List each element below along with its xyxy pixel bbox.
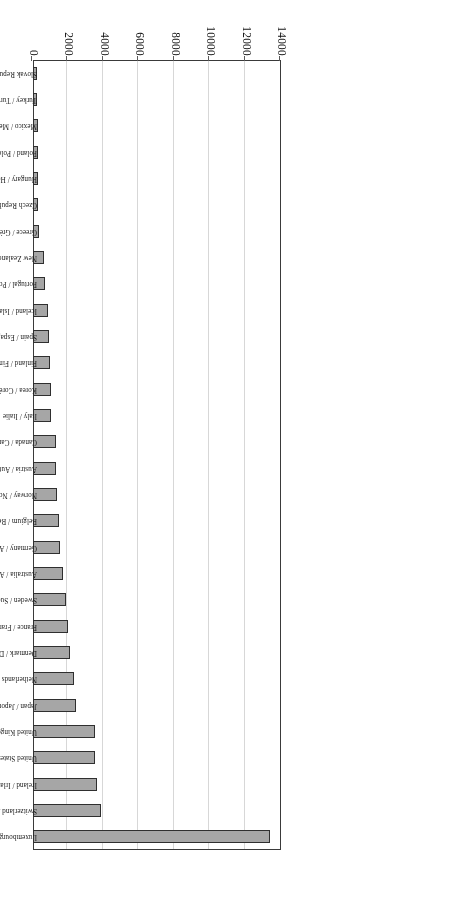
bar-row: Australia / Australie [0,560,473,586]
category-label-text: Mexico / Mexique [0,122,37,130]
category-label-text: Luxembourg / Luxembourg [0,833,37,841]
bar-row: Netherlands / Pays-Bas [0,666,473,692]
bar [33,593,66,606]
x-tick-label: 14000 [276,26,288,56]
x-tick-label: 8000 [170,32,182,56]
category-label-text: Canada / Canada [0,438,37,446]
category-label-text: New Zealand / Nouvelle Zélande [0,254,37,262]
bar-row: France / France [0,613,473,639]
bar-row: Sweden / Suède [0,587,473,613]
x-tick-label: 4000 [99,32,111,56]
bar-row: United Kingdom / Royaume-Uni [0,718,473,744]
category-label-text: United Kingdom / Royaume-Uni [0,728,37,736]
bar [33,725,95,738]
bar [33,830,270,843]
bar-row: Mexico / Mexique [0,113,473,139]
bar-row: Spain / Espagne [0,323,473,349]
bar-row: Luxembourg / Luxembourg [0,824,473,850]
x-tick-label: 0 [28,50,40,56]
x-tick-label: 6000 [134,32,146,56]
bar-row: Italy / Italie [0,402,473,428]
rotated-figure-container: Luxembourg / LuxembourgSwitzerland / Sui… [0,0,473,914]
bar [33,620,68,633]
bar [33,778,97,791]
category-label-text: Germany / Allemagne [0,544,37,552]
category-label-text: Czech Republic / République Tchèque [0,201,37,209]
bar [33,567,63,580]
category-label-text: Ireland / Irlande [0,781,37,789]
category-label-text: Greece / Grèce [0,228,37,236]
bar [33,751,95,764]
category-label-text: Sweden / Suède [0,596,37,604]
bar-row: Japan / Japon [0,692,473,718]
bar-row: Turkey / Turquie [0,86,473,112]
category-label-text: Iceland / Islande [0,307,37,315]
category-label-text: Australia / Australie [0,570,37,578]
bar-row: Czech Republic / République Tchèque [0,192,473,218]
category-label-text: United States / États-Unis [0,754,37,762]
bar-row: Greece / Grèce [0,218,473,244]
bar-row: Austria / Autriche [0,455,473,481]
bar-row: Korea / Corée [0,376,473,402]
bar-row: Hungary / Hongrie [0,165,473,191]
bar-row: Slovak Republic / République Slovaque [0,60,473,86]
category-label-text: Netherlands / Pays-Bas [0,675,37,683]
bar-row: Belgium / Belgique [0,508,473,534]
category-label-text: Turkey / Turquie [0,96,37,104]
category-label-text: France / France [0,623,37,631]
bar [33,646,70,659]
x-tick-label: 10000 [205,26,217,56]
bar [33,804,101,817]
bar-row: Iceland / Islande [0,297,473,323]
x-tick-label: 12000 [241,26,253,56]
bar-row: Poland / Pologne [0,139,473,165]
bar-row: Switzerland / Suisse [0,797,473,823]
bar-row: Denmark / Danemark [0,639,473,665]
bar-row: Ireland / Irlande [0,771,473,797]
category-label-text: Denmark / Danemark [0,649,37,657]
bar-row: Finland / Finlande [0,350,473,376]
category-label-text: Italy / Italie [3,412,37,420]
category-label-text: Spain / Espagne [0,333,37,341]
category-label-text: Japan / Japon [0,702,37,710]
bar-chart-figure: Luxembourg / LuxembourgSwitzerland / Sui… [0,0,473,914]
bar-row: Portugal / Portugal [0,271,473,297]
category-label-text: Austria / Autriche [0,465,37,473]
category-label-text: Belgium / Belgique [0,517,37,525]
bar-row: Norway / Norvège [0,481,473,507]
bar-row: United States / États-Unis [0,745,473,771]
bar [33,541,60,554]
category-label-text: Norway / Norvège [0,491,37,499]
category-label-text: Finland / Finlande [0,359,37,367]
bar-row: Germany / Allemagne [0,534,473,560]
category-label-text: Switzerland / Suisse [0,807,37,815]
bar-rows: Luxembourg / LuxembourgSwitzerland / Sui… [0,60,473,850]
x-tick-label: 2000 [63,32,75,56]
bar [33,672,74,685]
category-label-text: Slovak Republic / République Slovaque [0,70,37,78]
bar [33,699,76,712]
category-label-text: Korea / Corée [0,386,37,394]
category-label-text: Poland / Pologne [0,149,37,157]
bar-row: New Zealand / Nouvelle Zélande [0,244,473,270]
bar-row: Canada / Canada [0,429,473,455]
category-label-text: Portugal / Portugal [0,280,37,288]
category-label-text: Hungary / Hongrie [0,175,37,183]
